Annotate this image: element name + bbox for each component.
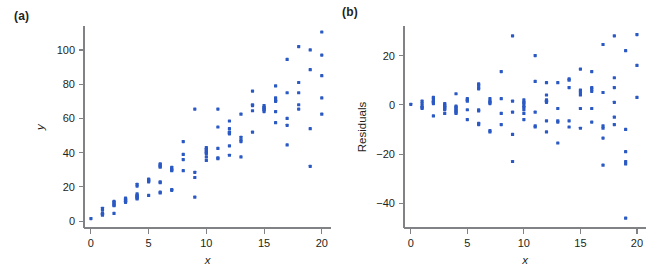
data-point: [443, 108, 446, 111]
x-tick-label: 0: [88, 237, 94, 249]
data-point: [488, 102, 491, 105]
data-point: [568, 125, 571, 128]
data-point: [89, 217, 92, 220]
data-point: [466, 118, 469, 121]
data-point: [286, 58, 289, 61]
y-axis-title: y: [34, 123, 46, 131]
data-point: [297, 107, 300, 110]
data-point: [624, 49, 627, 52]
data-point: [477, 87, 480, 90]
data-point: [309, 165, 312, 168]
data-point: [579, 127, 582, 130]
data-point: [466, 100, 469, 103]
data-point: [477, 109, 480, 112]
data-point: [409, 103, 412, 106]
data-point: [545, 130, 548, 133]
x-tick-label: 10: [518, 237, 530, 249]
data-point: [613, 123, 616, 126]
data-point: [193, 176, 196, 179]
x-tick-label: 15: [574, 237, 586, 249]
data-point: [205, 159, 208, 162]
y-tick-label: 60: [63, 112, 75, 124]
data-point: [193, 171, 196, 174]
data-point: [320, 54, 323, 57]
data-point: [601, 127, 604, 130]
data-point: [454, 112, 457, 115]
figure-container: (a) 02040608010005101520xy (b) −40−20020…: [0, 0, 665, 270]
data-point: [216, 157, 219, 160]
x-tick-label: 10: [200, 237, 212, 249]
y-tick-label: 20: [383, 50, 395, 62]
data-point: [101, 214, 104, 217]
data-point: [545, 81, 548, 84]
data-point: [613, 34, 616, 37]
data-point: [500, 112, 503, 115]
data-point: [309, 48, 312, 51]
data-point: [159, 191, 162, 194]
x-axis-title: x: [204, 254, 212, 266]
data-point: [309, 127, 312, 130]
y-tick-label: −40: [376, 197, 395, 209]
data-point: [534, 80, 537, 83]
x-tick-label: 5: [146, 237, 152, 249]
data-point: [534, 54, 537, 57]
data-point: [443, 112, 446, 115]
data-point: [147, 194, 150, 197]
data-point: [124, 201, 127, 204]
panel-a: (a) 02040608010005101520xy: [0, 0, 335, 270]
data-point: [320, 113, 323, 116]
data-point: [500, 97, 503, 100]
data-point: [216, 107, 219, 110]
data-point: [112, 204, 115, 207]
data-point: [579, 68, 582, 71]
data-point: [545, 119, 548, 122]
data-point: [466, 108, 469, 111]
data-point: [635, 64, 638, 67]
data-point: [228, 119, 231, 122]
data-point: [205, 155, 208, 158]
data-point: [590, 120, 593, 123]
data-point: [182, 153, 185, 156]
data-point: [568, 79, 571, 82]
y-tick-label: −20: [376, 148, 395, 160]
data-point: [545, 93, 548, 96]
data-point: [488, 130, 491, 133]
data-point: [193, 196, 196, 199]
data-point: [556, 81, 559, 84]
data-point: [613, 76, 616, 79]
data-point: [297, 45, 300, 48]
data-point: [320, 74, 323, 77]
data-point: [601, 164, 604, 167]
data-point: [309, 68, 312, 71]
data-point: [635, 96, 638, 99]
data-point: [601, 43, 604, 46]
data-point: [239, 113, 242, 116]
data-point: [590, 70, 593, 73]
data-point: [159, 166, 162, 169]
data-point: [216, 147, 219, 150]
y-tick-label: 80: [63, 78, 75, 90]
data-point: [556, 141, 559, 144]
data-point: [101, 208, 104, 211]
data-point: [522, 108, 525, 111]
data-point: [511, 100, 514, 103]
data-point: [601, 136, 604, 139]
data-point: [534, 125, 537, 128]
data-point: [624, 128, 627, 131]
data-point: [500, 70, 503, 73]
data-point: [500, 123, 503, 126]
data-point: [182, 158, 185, 161]
data-point: [286, 117, 289, 120]
data-point: [590, 90, 593, 93]
data-point: [624, 150, 627, 153]
data-point: [228, 127, 231, 130]
data-point: [251, 131, 254, 134]
panel-b: (b) −40−2002005101520xResiduals: [335, 0, 665, 270]
data-point: [420, 107, 423, 110]
data-point: [274, 84, 277, 87]
data-point: [239, 155, 242, 158]
data-point: [182, 169, 185, 172]
data-point: [193, 107, 196, 110]
data-point: [454, 92, 457, 95]
y-tick-label: 40: [63, 147, 75, 159]
